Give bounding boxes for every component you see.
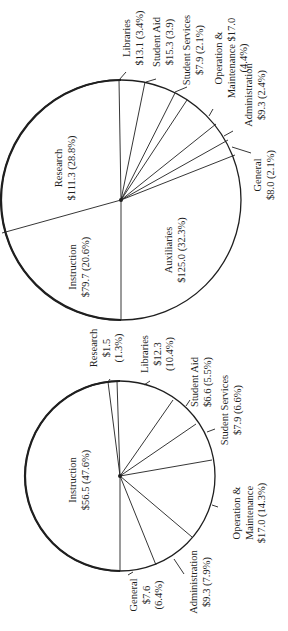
slice-label: Student Services$7.9 (6.6%)	[219, 375, 244, 445]
leader-line	[128, 572, 133, 575]
leader-line	[209, 109, 213, 116]
slice-label: Operation &Maintenance$17.0 (14.3%)	[231, 482, 268, 543]
slice-label: Libraries$13.1 (3.4%)	[121, 10, 146, 66]
slice-label: Student Services$7.9 (2.1%)	[181, 15, 206, 85]
slice-label: Student Aid$6.6 (5.5%)	[189, 356, 214, 407]
pie-chart-figure: Research$111.3 (28.8%)Instruction$79.7 (…	[0, 0, 288, 631]
leader-line	[207, 429, 215, 432]
leader-line	[174, 559, 184, 574]
leader-line	[212, 505, 218, 507]
leader-line	[119, 72, 126, 80]
slice-label: Research$1.5(1.3%)	[88, 328, 125, 367]
pie-chart-1: Research$111.3 (28.8%)Instruction$79.7 (…	[1, 10, 277, 320]
leader-line	[232, 147, 251, 153]
slice-label: General$7.6(6.4%)	[128, 578, 165, 611]
slice-label: Administration$9.3 (7.9%)	[188, 549, 213, 613]
pie-center	[118, 474, 122, 478]
slice-label: General$8.0 (2.1%)	[252, 150, 277, 200]
slice-label: Administration$9.3 (2.4%)	[243, 62, 268, 126]
leader-line	[175, 87, 187, 92]
pie-center	[119, 198, 123, 202]
pie-charts-canvas: Research$111.3 (28.8%)Instruction$79.7 (…	[0, 0, 288, 631]
slice-label: Libraries$12.3(10.4%)	[139, 335, 176, 373]
leader-line	[224, 131, 233, 136]
pie-chart-2: Instruction$56.5 (47.6%)Research$1.5(1.3…	[25, 328, 268, 614]
leader-line	[146, 79, 156, 82]
slice-label: Instruction$56.5 (47.6%)	[67, 449, 92, 510]
slice-label: Instruction$79.7 (20.6%)	[67, 236, 92, 297]
slice-label: Student Aid$15.3 (3.9)	[151, 16, 176, 67]
